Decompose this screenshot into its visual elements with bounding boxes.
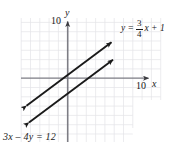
y-axis-tick-label-10: 10 (51, 16, 61, 26)
equation-label-line1: y = 3 4 x + 1 (121, 19, 165, 39)
equation-label-line2: 3x – 4y = 12 (3, 132, 56, 142)
equation-label-line1-lhs: y = (121, 24, 134, 34)
x-axis-tick-label-10: 10 (136, 81, 146, 91)
fraction-denominator: 4 (136, 30, 143, 39)
equation-label-line1-rhs: x + 1 (145, 24, 165, 34)
graph-figure: y x 10 10 y = 3 4 x + 1 3x – 4y = 12 (0, 0, 180, 149)
x-axis-label: x (152, 79, 156, 89)
fraction-three-fourths: 3 4 (136, 19, 143, 39)
fraction-numerator: 3 (136, 19, 143, 28)
y-axis-label: y (65, 8, 69, 18)
line-y-equals-three-quarters-x-plus-one (27, 42, 112, 106)
